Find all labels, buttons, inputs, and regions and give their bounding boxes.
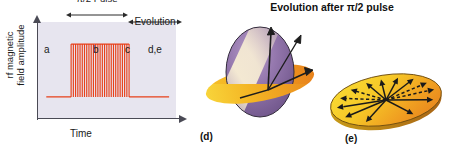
evolution-label: Evolution <box>125 16 185 27</box>
annotation-pi2-pulse: π/2 Pulse <box>66 2 128 18</box>
pulse-timing-chart: rf magnetic field amplitude Time a b c d… <box>0 0 190 152</box>
region-label-b: b <box>93 44 99 55</box>
dephasing-disk-diagram <box>320 46 456 152</box>
panel-tag-e: (e) <box>345 133 357 144</box>
region-label-c: c <box>125 44 130 55</box>
y-axis-line <box>37 22 38 120</box>
pi2-pulse-label: π/2 Pulse <box>64 0 130 4</box>
x-axis-label: Time <box>70 128 92 139</box>
annotation-evolution: Evolution <box>128 9 182 25</box>
y-axis-arrowhead <box>33 15 41 23</box>
pulse-span-arrow <box>66 11 128 19</box>
rf-signal-trace <box>38 22 176 118</box>
x-axis-line <box>37 118 181 119</box>
figure-root: rf magnetic field amplitude Time a b c d… <box>0 0 456 152</box>
x-axis-arrowhead <box>179 115 187 123</box>
sphere-body <box>208 10 294 130</box>
y-axis-label: rf magnetic field amplitude <box>4 7 26 103</box>
panel-tag-d: (d) <box>200 131 213 142</box>
region-label-a: a <box>44 44 50 55</box>
region-label-de: d,e <box>148 44 162 55</box>
